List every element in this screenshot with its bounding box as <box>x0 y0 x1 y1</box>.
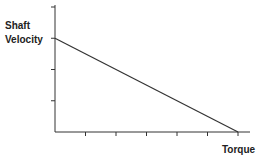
speed-torque-line <box>55 38 238 132</box>
speed-torque-chart <box>0 0 261 158</box>
y-ticks <box>51 7 55 101</box>
y-axis-label-line2: Velocity <box>5 34 43 45</box>
x-axis-label: Torque <box>222 144 255 155</box>
x-ticks <box>86 132 239 136</box>
y-axis-label-line1: Shaft <box>5 20 30 31</box>
